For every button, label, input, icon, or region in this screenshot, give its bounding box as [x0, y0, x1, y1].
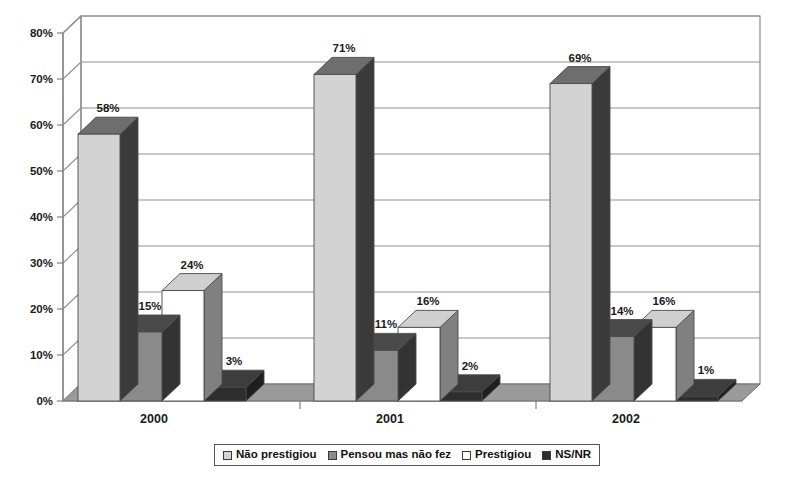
legend-item-label: Pensou mas não fez [341, 449, 452, 461]
bar-2000-series-1 [78, 117, 138, 401]
depth-connector-80% [63, 16, 81, 33]
value-label-2002-series-1: 69% [568, 52, 591, 64]
value-label-2001-series-2: 11% [375, 318, 397, 330]
legend-item-4[interactable]: NS/NR [542, 449, 591, 461]
value-label-2001-series-3: 16% [416, 295, 439, 307]
legend-item-1[interactable]: Não prestigiou [223, 449, 317, 461]
legend-swatch-icon [462, 451, 471, 460]
bar-front-face [314, 74, 356, 401]
y-axis-label-60%: 60% [30, 119, 53, 131]
x-axis-label-2000: 2000 [140, 412, 168, 426]
bar-side-face [120, 117, 138, 401]
bar-front-face [78, 134, 120, 401]
y-axis-label-20%: 20% [30, 303, 53, 315]
value-label-2001-series-1: 71% [332, 42, 355, 54]
bar-2002-series-1 [550, 67, 610, 401]
value-label-2000-series-3: 24% [180, 259, 203, 271]
bar-2001-series-1 [314, 57, 374, 401]
value-label-2000-series-1: 58% [96, 102, 119, 114]
x-axis-label-2002: 2002 [612, 412, 640, 426]
legend-item-label: Não prestigiou [236, 449, 317, 461]
chart-legend: Não prestigiouPensou mas não fezPrestigi… [214, 444, 600, 466]
y-axis-label-80%: 80% [30, 27, 53, 39]
legend-item-label: NS/NR [555, 449, 591, 461]
y-axis-label-10%: 10% [30, 349, 53, 361]
legend-item-3[interactable]: Prestigiou [462, 449, 531, 461]
legend-swatch-icon [328, 451, 337, 460]
bars-group [78, 57, 736, 401]
value-label-2000-series-4: 3% [226, 355, 243, 367]
bar-side-face [356, 57, 374, 401]
y-axis-label-40%: 40% [30, 211, 53, 223]
value-label-2002-series-2: 14% [610, 305, 633, 317]
value-label-2001-series-4: 2% [462, 360, 479, 372]
bar-front-face [550, 84, 592, 401]
depth-connector-60% [63, 108, 81, 125]
legend-swatch-icon [223, 451, 232, 460]
value-label-2000-series-2: 15% [138, 300, 161, 312]
y-axis-label-50%: 50% [30, 165, 53, 177]
y-axis-label-0%: 0% [36, 395, 53, 407]
value-label-2002-series-3: 16% [652, 295, 675, 307]
bar-side-face [204, 274, 222, 401]
legend-item-label: Prestigiou [475, 449, 531, 461]
y-axis-label-70%: 70% [30, 73, 53, 85]
depth-connector-70% [63, 62, 81, 79]
y-axis-label-30%: 30% [30, 257, 53, 269]
x-axis-label-2001: 2001 [376, 412, 404, 426]
legend-swatch-icon [542, 451, 551, 460]
category-labels-group: 200020012002 [140, 401, 640, 426]
chart-canvas: 0%10%20%30%40%50%60%70%80%3%24%15%58%2%1… [0, 0, 797, 500]
bar-side-face [592, 67, 610, 401]
bar-chart: 0%10%20%30%40%50%60%70%80%3%24%15%58%2%1… [0, 0, 797, 500]
value-label-2002-series-4: 1% [698, 364, 715, 376]
bar-front-face [676, 396, 718, 401]
legend-item-2[interactable]: Pensou mas não fez [328, 449, 452, 461]
